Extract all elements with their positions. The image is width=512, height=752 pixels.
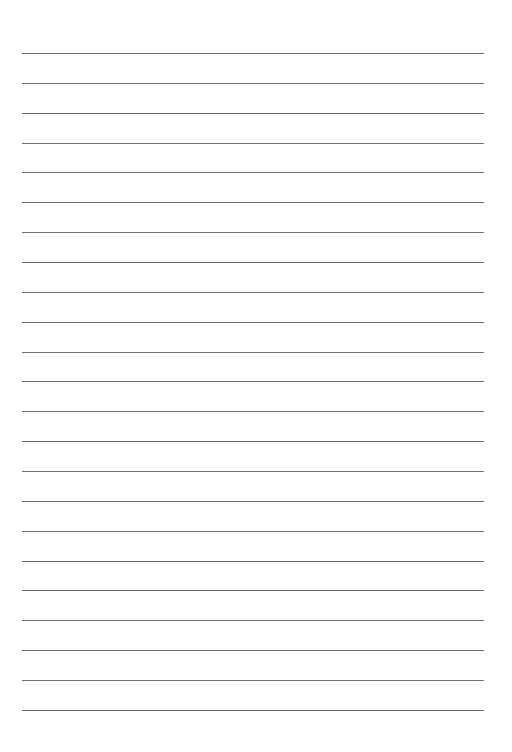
ruled-line — [22, 232, 484, 233]
ruled-line — [22, 83, 484, 84]
ruled-line — [22, 202, 484, 203]
ruled-line — [22, 441, 484, 442]
ruled-line — [22, 381, 484, 382]
ruled-line — [22, 501, 484, 502]
ruled-line — [22, 292, 484, 293]
ruled-line — [22, 471, 484, 472]
ruled-line — [22, 262, 484, 263]
ruled-line — [22, 143, 484, 144]
ruled-line — [22, 322, 484, 323]
ruled-line — [22, 531, 484, 532]
ruled-line — [22, 620, 484, 621]
ruled-line — [22, 650, 484, 651]
ruled-line — [22, 680, 484, 681]
ruled-line — [22, 710, 484, 711]
ruled-line — [22, 53, 484, 54]
ruled-line — [22, 590, 484, 591]
ruled-line — [22, 113, 484, 114]
lined-paper-page — [0, 0, 512, 752]
ruled-line — [22, 172, 484, 173]
ruled-line — [22, 411, 484, 412]
ruled-line — [22, 352, 484, 353]
ruled-line — [22, 561, 484, 562]
